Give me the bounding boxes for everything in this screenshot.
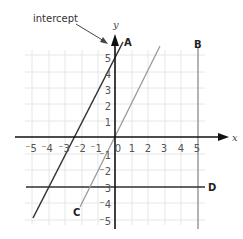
x-axis-label: x [232, 132, 238, 143]
arrow-head-icon [100, 37, 108, 44]
y-tick: 4 [105, 69, 111, 80]
y-tick: ⁻5 [99, 216, 111, 227]
y-tick: ⁻2 [99, 166, 111, 177]
x-axis-arrow-icon [218, 133, 229, 141]
y-tick: 5 [105, 53, 111, 64]
y-tick: ⁻4 [99, 199, 111, 210]
x-tick: 5 [194, 143, 200, 154]
y-axis-label: y [112, 19, 119, 30]
x-tick: ⁻5 [25, 143, 37, 154]
y-tick: 1 [105, 117, 111, 128]
y-tick: 2 [105, 101, 111, 112]
x-tick: 2 [145, 143, 151, 154]
y-tick: ⁻3 [99, 183, 111, 194]
x-tick: ⁻3 [58, 143, 70, 154]
x-tick-labels: ⁻5 ⁻4 ⁻3 ⁻2 ⁻1 0 1 2 3 4 5 [25, 143, 200, 154]
label-d: D [208, 182, 216, 193]
intercept-label: intercept [33, 13, 78, 24]
x-tick: ⁻2 [74, 143, 86, 154]
y-tick: 3 [105, 85, 111, 96]
label-b: B [194, 39, 202, 50]
x-tick: 0 [115, 143, 121, 154]
x-tick: 1 [129, 143, 135, 154]
x-tick: ⁻4 [41, 143, 53, 154]
coordinate-graph: y x intercept A B C D ⁻5 ⁻4 ⁻3 ⁻2 ⁻1 0 1… [0, 0, 243, 239]
intercept-arrow [76, 24, 108, 44]
x-tick: 4 [178, 143, 184, 154]
x-axis [15, 133, 229, 141]
y-axis-arrow-icon [111, 34, 119, 46]
x-tick: 3 [161, 143, 167, 154]
label-a: A [124, 37, 132, 48]
y-tick: ⁻1 [99, 150, 111, 161]
label-c: C [73, 207, 80, 218]
y-tick-labels: 5 4 3 2 1 ⁻1 ⁻2 ⁻3 ⁻4 ⁻5 [99, 53, 111, 227]
